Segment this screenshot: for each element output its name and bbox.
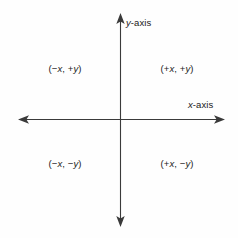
- x-axis-label: x-axis: [188, 99, 213, 110]
- quadrant-3-close-paren: ): [78, 158, 81, 169]
- x-axis-label-suffix: -axis: [193, 99, 214, 110]
- quadrant-4-label: (+x, −y): [160, 158, 193, 169]
- quadrant-4-close-paren: ): [190, 158, 193, 169]
- quadrant-1-label: (+x, +y): [160, 63, 193, 74]
- y-axis-label: y-axis: [126, 17, 151, 28]
- quadrant-2-label: (−x, +y): [48, 63, 81, 74]
- axes-graphic: [0, 0, 238, 238]
- coordinate-plane-figure: y-axis x-axis (−x, +y) (+x, +y) (−x, −y)…: [0, 0, 238, 238]
- quadrant-2-close-paren: ): [78, 63, 81, 74]
- quadrant-3-label: (−x, −y): [48, 158, 81, 169]
- quadrant-1-close-paren: ): [190, 63, 193, 74]
- y-axis-label-suffix: -axis: [131, 17, 152, 28]
